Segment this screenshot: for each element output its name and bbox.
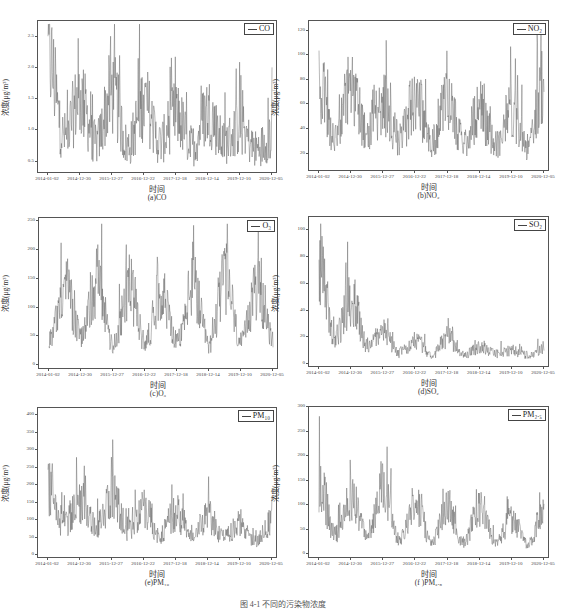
y-tick-label: 80 (287, 76, 305, 81)
y-tick-mark (36, 249, 38, 250)
data-line (319, 224, 544, 359)
y-tick-mark (35, 432, 37, 433)
x-tick-label: 2018-12-14 (467, 370, 490, 375)
y-tick-mark (306, 480, 308, 481)
y-tick-label: 150 (17, 275, 35, 280)
x-tick-label: 2018-12-14 (467, 174, 490, 179)
y-tick-mark (35, 98, 37, 99)
y-tick-mark (36, 278, 38, 279)
x-tick-label: 2020-12-05 (531, 174, 554, 179)
y-tick-label: 0 (287, 360, 305, 365)
x-tick-label: 2014-01-02 (306, 561, 329, 566)
y-tick-mark (35, 467, 37, 468)
y-tick-label: 300 (16, 446, 34, 451)
y-tick-mark (36, 335, 38, 336)
line-series (309, 217, 549, 367)
y-tick-mark (306, 30, 308, 31)
x-tick-label: 2020-12-05 (259, 176, 282, 181)
x-tick-label: 2014-12-30 (338, 561, 361, 566)
x-tick-label: 2019-12-10 (499, 370, 522, 375)
x-tick-label: 2015-12-27 (100, 372, 123, 377)
y-tick-mark (35, 554, 37, 555)
x-tick-label: 2020-12-05 (259, 561, 282, 566)
x-tick-label: 2016-12-22 (132, 372, 155, 377)
y-tick-label: 100 (287, 51, 305, 56)
x-tick-mark (48, 369, 49, 371)
x-tick-label: 2019-12-10 (227, 561, 250, 566)
plot-area: PM₂.₅ (308, 406, 549, 558)
x-tick-label: 2014-12-30 (338, 370, 361, 375)
data-line (48, 24, 272, 166)
y-tick-label: 0 (17, 361, 35, 366)
legend: O₃ (247, 220, 275, 232)
x-tick-mark (511, 367, 512, 369)
x-tick-mark (175, 173, 176, 175)
x-tick-mark (318, 558, 319, 560)
y-axis-title: 浓度(μg/m³) (0, 275, 10, 312)
y-tick-mark (306, 229, 308, 230)
plot-area: NO₂ (308, 20, 549, 171)
y-tick-label: 2.0 (16, 64, 34, 69)
x-tick-mark (479, 171, 480, 173)
data-line (48, 440, 272, 547)
y-tick-label: 1.5 (16, 95, 34, 100)
y-tick-label: 100 (287, 226, 305, 231)
x-tick-mark (208, 369, 209, 371)
x-tick-label: 2015-12-27 (371, 561, 394, 566)
x-tick-mark (382, 367, 383, 369)
x-tick-label: 2017-12-18 (435, 561, 458, 566)
x-tick-label: 2015-12-27 (99, 561, 122, 566)
y-tick-mark (306, 283, 308, 284)
x-tick-mark (382, 558, 383, 560)
y-tick-label: 60 (287, 280, 305, 285)
y-tick-label: 0 (16, 551, 34, 556)
y-tick-label: 150 (287, 477, 305, 482)
y-tick-mark (306, 336, 308, 337)
x-tick-label: 2019-12-10 (499, 174, 522, 179)
y-tick-mark (35, 519, 37, 520)
y-tick-mark (35, 161, 37, 162)
x-tick-mark (447, 171, 448, 173)
line-series (38, 21, 277, 173)
x-tick-mark (511, 171, 512, 173)
y-tick-label: 1.0 (16, 126, 34, 131)
line-series (309, 407, 549, 558)
x-tick-mark (271, 173, 272, 175)
figure-caption: 图 4-1 不同的污染物浓度 (240, 598, 327, 609)
x-tick-mark (112, 369, 113, 371)
y-tick-mark (306, 431, 308, 432)
panel-caption: (c)O₃ (150, 389, 166, 398)
y-tick-label: 200 (287, 452, 305, 457)
y-tick-mark (306, 128, 308, 129)
legend-line-icon (242, 416, 251, 417)
y-tick-label: 80 (287, 253, 305, 258)
x-tick-mark (111, 173, 112, 175)
x-tick-mark (318, 367, 319, 369)
y-tick-label: 120 (287, 27, 305, 32)
x-tick-label: 2015-12-27 (371, 174, 394, 179)
y-tick-mark (35, 537, 37, 538)
x-tick-label: 2020-12-05 (531, 370, 554, 375)
x-tick-label: 2014-01-02 (35, 176, 58, 181)
y-tick-mark (306, 54, 308, 55)
panel-caption: (b)NO₂ (417, 191, 439, 200)
x-tick-label: 2017-12-18 (163, 176, 186, 181)
x-tick-label: 2014-01-02 (35, 561, 58, 566)
y-axis-title: 浓度(μg/m³) (0, 79, 10, 116)
x-tick-label: 2017-12-18 (163, 561, 186, 566)
x-tick-mark (144, 369, 145, 371)
x-tick-label: 2014-12-30 (338, 174, 361, 179)
x-tick-mark (414, 171, 415, 173)
x-tick-label: 2020-12-05 (531, 561, 554, 566)
x-tick-mark (47, 173, 48, 175)
y-axis-title: 浓度(μg/m³) (269, 465, 280, 502)
x-tick-mark (479, 558, 480, 560)
x-tick-label: 2018-12-14 (467, 561, 490, 566)
y-tick-mark (36, 220, 38, 221)
x-tick-label: 2017-12-18 (435, 370, 458, 375)
x-tick-mark (543, 171, 544, 173)
x-tick-label: 2015-12-27 (99, 176, 122, 181)
legend-line-icon (512, 415, 521, 416)
x-tick-label: 2018-12-14 (195, 176, 218, 181)
x-tick-label: 2014-12-30 (67, 561, 90, 566)
